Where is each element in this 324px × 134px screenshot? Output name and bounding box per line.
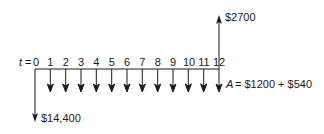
initial-outflow-label: $14,400	[41, 112, 81, 124]
period-label: 1	[47, 56, 53, 68]
period-label: 7	[139, 56, 145, 68]
period-label: 5	[109, 56, 115, 68]
time-equals: =	[25, 56, 31, 68]
period-label: 12	[213, 56, 225, 68]
period-label: 2	[63, 56, 69, 68]
period-label: 11	[198, 56, 209, 68]
period-label: 10	[183, 56, 195, 68]
time-symbol: t	[19, 56, 22, 68]
final-inflow-label: $2700	[225, 11, 256, 23]
period-label: 9	[170, 56, 176, 68]
period-label: 6	[124, 56, 130, 68]
annuity-symbol: A	[226, 78, 233, 90]
annuity-label: = $1200 + $540	[235, 78, 312, 90]
period-label: 4	[93, 56, 99, 68]
annuity-arrows	[47, 69, 222, 92]
period-label: 8	[155, 56, 161, 68]
period-label: 3	[78, 56, 84, 68]
period-label: 0	[33, 56, 39, 68]
